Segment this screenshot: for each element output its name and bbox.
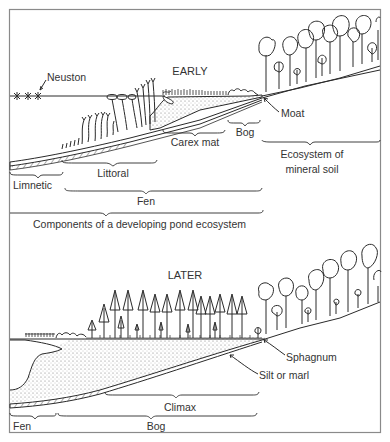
brace-bog-later bbox=[58, 413, 257, 419]
carex-fringe-later bbox=[25, 333, 55, 337]
label-fen-early: Fen bbox=[137, 196, 155, 207]
label-climax: Climax bbox=[164, 402, 196, 413]
brace-limnetic bbox=[10, 172, 63, 178]
panel-title-early: EARLY bbox=[172, 66, 207, 77]
label-moat: Moat bbox=[281, 108, 304, 119]
label-silt-or-marl: Silt or marl bbox=[259, 370, 309, 381]
label-bog-later: Bog bbox=[147, 421, 166, 432]
deciduous-trees-early-icon bbox=[259, 15, 380, 92]
brace-littoral bbox=[62, 160, 157, 166]
figure-caption: Components of a developing pond ecosyste… bbox=[33, 219, 246, 230]
label-bog-early: Bog bbox=[236, 127, 255, 138]
label-neuston: Neuston bbox=[47, 72, 86, 83]
label-littoral: Littoral bbox=[97, 168, 129, 179]
bog-shrubs-icon bbox=[228, 89, 258, 95]
brace-fen-later bbox=[10, 413, 56, 419]
label-sphagnum: Sphagnum bbox=[286, 352, 337, 363]
brace-climax bbox=[105, 392, 259, 398]
label-carex-mat: Carex mat bbox=[171, 137, 219, 148]
label-limnetic: Limnetic bbox=[13, 180, 52, 191]
label-fen-later: Fen bbox=[13, 421, 31, 432]
brace-fen bbox=[65, 188, 262, 194]
brace-components bbox=[10, 210, 263, 216]
label-mineral-soil: Ecosystem of mineral soil bbox=[276, 147, 348, 177]
carex-mat-grass-icon bbox=[163, 89, 226, 95]
brace-mineral-soil bbox=[262, 140, 380, 145]
mineral-soil-slope bbox=[262, 66, 380, 96]
floating-plants-icon bbox=[107, 95, 137, 133]
conifer-trees-icon bbox=[88, 290, 247, 338]
bog-shrubs-later bbox=[56, 333, 86, 338]
panel-title-later: LATER bbox=[168, 270, 203, 281]
early-panel bbox=[10, 15, 380, 216]
